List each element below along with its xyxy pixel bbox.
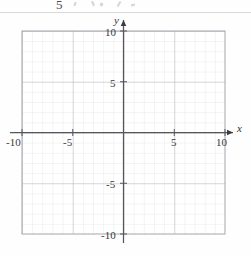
x-axis-label: x bbox=[237, 123, 242, 134]
y-axis-arrowhead bbox=[121, 20, 127, 26]
y-tick-label-neg10: -10 bbox=[101, 230, 116, 241]
scan-smudge-mark bbox=[117, 1, 122, 7]
x-tick-label-neg5: -5 bbox=[63, 137, 72, 148]
y-tick-label-neg5: -5 bbox=[106, 179, 115, 190]
x-tick-label-10: 10 bbox=[216, 137, 227, 148]
x-tick-label-5: 5 bbox=[171, 137, 177, 148]
scan-smudge-mark bbox=[100, 3, 104, 7]
scanned-page: 5 bbox=[0, 0, 251, 256]
x-axis-arrowhead bbox=[227, 130, 233, 136]
scan-smudge-mark bbox=[91, 1, 95, 6]
coordinate-grid-svg bbox=[0, 13, 251, 256]
scan-smudge-mark bbox=[73, 2, 76, 6]
scan-smudge-mark bbox=[131, 4, 135, 7]
coordinate-plane: 10 5 -5 -10 -10 -5 5 10 y x bbox=[0, 13, 251, 256]
y-axis-label: y bbox=[114, 15, 119, 26]
y-tick-label-5: 5 bbox=[110, 78, 116, 89]
x-tick-label-neg10: -10 bbox=[6, 137, 21, 148]
scan-artifact-row: 5 bbox=[0, 0, 251, 13]
y-tick-label-10: 10 bbox=[105, 27, 116, 38]
